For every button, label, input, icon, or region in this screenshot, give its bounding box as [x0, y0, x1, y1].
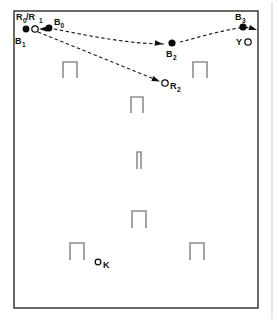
marker-B0 — [46, 25, 53, 32]
label-B1-subscript: 1 — [22, 41, 26, 48]
marker-Y — [245, 39, 251, 45]
marker-K — [95, 259, 101, 265]
label-Y: Y — [236, 37, 242, 47]
label-K: K — [103, 260, 110, 270]
trajectory-diagram: B1R0/R1B0B2B3YR2K — [0, 0, 279, 321]
figure-background — [0, 0, 279, 321]
marker-R0R1 — [32, 26, 38, 32]
label-B2: B — [166, 49, 173, 59]
label-R2-subscript: 2 — [177, 86, 181, 93]
label-B1: B — [15, 36, 22, 46]
label-B0-subscript: 0 — [61, 22, 65, 29]
label-B3: B — [235, 12, 242, 22]
label-B3-subscript: 3 — [242, 17, 246, 24]
label-R0R1: R — [16, 12, 23, 22]
marker-B1 — [23, 26, 30, 33]
figure-container: B1R0/R1B0B2B3YR2K — [0, 0, 279, 321]
label-R2: R — [170, 81, 177, 91]
marker-R2 — [162, 80, 168, 86]
marker-B3 — [239, 23, 246, 30]
label-R0R1-subscript-2: 1 — [39, 17, 43, 24]
label-B2-subscript: 2 — [173, 54, 177, 61]
label-R0R1-second: /R — [26, 12, 36, 22]
marker-B2 — [168, 39, 175, 46]
